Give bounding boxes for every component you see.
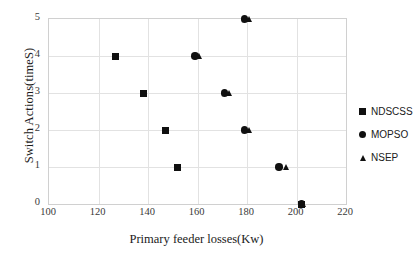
chart-legend: NDSCSSMOPSONSEP bbox=[357, 100, 419, 169]
legend-label: MOPSO bbox=[368, 129, 408, 140]
legend-item-nsep[interactable]: NSEP bbox=[357, 146, 419, 169]
x-tick-label: 160 bbox=[177, 206, 217, 217]
triangle-marker-icon bbox=[357, 155, 368, 161]
data-point-nsep bbox=[246, 16, 252, 22]
data-point-ndscss bbox=[162, 127, 169, 134]
x-tick-label: 220 bbox=[325, 206, 365, 217]
data-point-nsep bbox=[226, 90, 232, 96]
x-axis-title: Primary feeder losses(Kw) bbox=[48, 232, 345, 247]
y-tick-label: 2 bbox=[20, 122, 40, 133]
gridline-vertical bbox=[148, 19, 149, 204]
y-tick-label: 3 bbox=[20, 85, 40, 96]
legend-label: NSEP bbox=[368, 152, 398, 163]
data-point-ndscss bbox=[174, 164, 181, 171]
data-point-ndscss bbox=[112, 53, 119, 60]
gridline-vertical bbox=[297, 19, 298, 204]
gridline-vertical bbox=[198, 19, 199, 204]
x-tick-label: 120 bbox=[78, 206, 118, 217]
gridline-horizontal bbox=[49, 167, 346, 168]
y-tick-label: 5 bbox=[20, 11, 40, 22]
x-tick-label: 200 bbox=[276, 206, 316, 217]
y-tick-label: 0 bbox=[20, 196, 40, 207]
circle-marker-icon bbox=[357, 131, 368, 138]
gridline-vertical bbox=[247, 19, 248, 204]
data-point-ndscss bbox=[140, 90, 147, 97]
gridline-horizontal bbox=[49, 93, 346, 94]
y-tick-label: 4 bbox=[20, 48, 40, 59]
legend-item-mopso[interactable]: MOPSO bbox=[357, 123, 419, 146]
data-point-nsep bbox=[283, 164, 289, 170]
legend-item-ndscss[interactable]: NDSCSS bbox=[357, 100, 419, 123]
gridline-vertical bbox=[99, 19, 100, 204]
x-tick-label: 180 bbox=[226, 206, 266, 217]
data-point-nsep bbox=[196, 53, 202, 59]
x-tick-label: 100 bbox=[28, 206, 68, 217]
data-point-mopso bbox=[275, 163, 283, 171]
scatter-chart-figure: Switch Actions(timeS) 100120140160180200… bbox=[0, 0, 420, 261]
legend-label: NDSCSS bbox=[368, 106, 413, 117]
y-tick-label: 1 bbox=[20, 159, 40, 170]
square-marker-icon bbox=[357, 108, 368, 115]
y-axis-title: Switch Actions(timeS) bbox=[22, 11, 37, 201]
gridline-horizontal bbox=[49, 130, 346, 131]
plot-area bbox=[48, 18, 347, 205]
data-point-nsep bbox=[246, 127, 252, 133]
x-tick-label: 140 bbox=[127, 206, 167, 217]
